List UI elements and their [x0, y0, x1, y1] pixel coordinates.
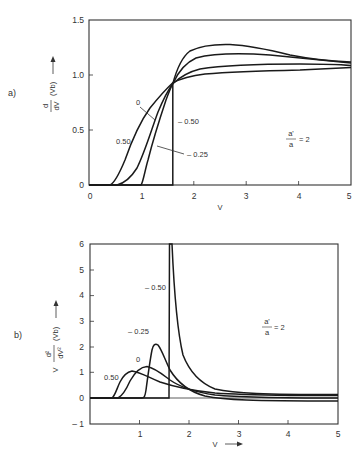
- svg-text:5: 5: [347, 191, 352, 201]
- svg-text:4: 4: [297, 191, 302, 201]
- svg-text:– 0.50: – 0.50: [145, 283, 166, 292]
- svg-text:a': a': [288, 129, 294, 138]
- panel-b: b) V d² dV² (Vb) – 1 0 1 2 3 4 5 6: [14, 239, 341, 449]
- svg-text:V: V: [212, 440, 217, 449]
- svg-text:= 2: = 2: [274, 323, 285, 332]
- svg-text:0.50: 0.50: [116, 137, 131, 146]
- svg-text:6: 6: [79, 239, 84, 249]
- svg-text:1: 1: [79, 367, 84, 377]
- svg-text:1.5: 1.5: [72, 15, 84, 25]
- curve-a-0.50: [89, 68, 351, 186]
- panel-b-ylabel: V d² dV² (Vb): [44, 300, 65, 373]
- svg-text:– 1: – 1: [72, 419, 84, 429]
- svg-text:0.5: 0.5: [72, 125, 84, 135]
- svg-text:3: 3: [79, 316, 84, 326]
- svg-text:0: 0: [88, 191, 93, 201]
- svg-text:5: 5: [336, 429, 341, 439]
- panel-a: a) d dV (Vb) 0 0.5 1.0 1.5 0 1 2: [8, 15, 352, 212]
- panel-b-xticks: 1 2 3 4 5: [138, 420, 341, 439]
- panel-a-yticks: 0 0.5 1.0 1.5: [72, 15, 93, 190]
- svg-text:2: 2: [79, 342, 84, 352]
- svg-text:2: 2: [187, 429, 192, 439]
- svg-text:a: a: [289, 140, 294, 149]
- svg-text:d²: d²: [44, 350, 53, 357]
- arrow-head-icon: [51, 56, 56, 62]
- panel-a-ratio: a' a = 2: [286, 129, 310, 149]
- svg-text:V: V: [51, 367, 60, 372]
- panel-b-yticks: – 1 0 1 2 3 4 5 6: [72, 239, 94, 429]
- svg-text:1: 1: [140, 191, 145, 201]
- curve-b-m0.50: [90, 244, 338, 398]
- svg-text:– 0.25: – 0.25: [187, 150, 208, 159]
- svg-text:0: 0: [136, 355, 140, 364]
- panel-b-curve-labels: – 0.50 – 0.25 0 0.50: [104, 283, 166, 382]
- svg-text:4: 4: [286, 429, 291, 439]
- svg-text:– 0.50: – 0.50: [178, 117, 199, 126]
- svg-text:0: 0: [79, 393, 84, 403]
- arrow-head-icon: [54, 300, 59, 306]
- svg-text:2: 2: [192, 191, 197, 201]
- panel-a-curve-labels: 0 0.50 – 0.50 – 0.25: [116, 98, 208, 159]
- svg-text:(Vb): (Vb): [51, 326, 60, 341]
- svg-text:d: d: [41, 104, 50, 108]
- curve-a-0: [89, 64, 351, 185]
- svg-text:0: 0: [79, 180, 84, 190]
- curve-a-m0.50: [89, 44, 351, 185]
- svg-text:dV²: dV²: [56, 347, 65, 359]
- panel-b-curves: [90, 244, 338, 401]
- svg-text:dV: dV: [52, 101, 61, 110]
- figure: a) d dV (Vb) 0 0.5 1.0 1.5 0 1 2: [0, 0, 361, 450]
- svg-text:0.50: 0.50: [104, 373, 119, 382]
- panel-b-label: b): [14, 330, 22, 340]
- panel-a-curves: [89, 44, 351, 185]
- panel-a-xlabel: V: [217, 203, 222, 212]
- panel-b-ratio: a' a = 2: [262, 317, 285, 337]
- svg-text:a': a': [264, 317, 270, 326]
- svg-text:3: 3: [237, 429, 242, 439]
- panel-a-xticks: 0 1 2 3 4 5: [88, 181, 352, 201]
- panel-a-ylabel: d dV (Vb): [41, 56, 61, 112]
- panel-b-xlabel: V: [212, 440, 243, 449]
- svg-text:– 0.25: – 0.25: [128, 327, 149, 336]
- svg-text:3: 3: [244, 191, 249, 201]
- svg-text:1.0: 1.0: [72, 70, 84, 80]
- svg-text:5: 5: [79, 265, 84, 275]
- svg-text:0: 0: [136, 98, 140, 107]
- svg-text:(Vb): (Vb): [48, 81, 57, 96]
- svg-text:= 2: = 2: [299, 135, 310, 144]
- panel-a-label: a): [8, 88, 16, 98]
- svg-text:1: 1: [138, 429, 143, 439]
- svg-text:a: a: [265, 328, 270, 337]
- svg-text:4: 4: [79, 290, 84, 300]
